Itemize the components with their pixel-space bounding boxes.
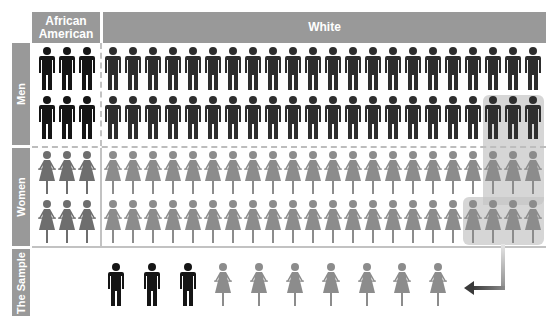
row-label-women-text: Women	[15, 177, 27, 217]
man-white-icon	[204, 47, 222, 91]
man-white-icon	[484, 47, 502, 91]
man-white-icon	[264, 96, 282, 140]
woman-african-american-icon	[38, 200, 56, 244]
woman-african-american-icon	[78, 200, 96, 244]
man-white-icon	[164, 47, 182, 91]
sample-woman-icon	[250, 263, 268, 307]
man-white-icon	[244, 47, 262, 91]
woman-white-icon	[184, 200, 202, 244]
woman-white-icon	[344, 200, 362, 244]
man-white-icon	[484, 96, 502, 140]
woman-white-icon	[324, 151, 342, 195]
row-label-sample-text: The Sample	[15, 252, 27, 314]
woman-white-icon	[384, 151, 402, 195]
sample-man-icon	[179, 263, 197, 307]
woman-white-icon	[144, 151, 162, 195]
sample-woman-icon	[393, 263, 411, 307]
header-african-american: African American	[32, 12, 100, 43]
woman-white-icon	[364, 151, 382, 195]
woman-white-icon	[404, 200, 422, 244]
row-label-women: Women	[12, 148, 30, 246]
woman-white-icon	[184, 151, 202, 195]
man-white-icon	[424, 47, 442, 91]
man-white-icon	[124, 47, 142, 91]
man-white-icon	[184, 96, 202, 140]
woman-white-icon	[464, 200, 482, 244]
man-white-icon	[224, 47, 242, 91]
woman-white-icon	[424, 151, 442, 195]
man-white-icon	[464, 47, 482, 91]
woman-white-icon	[144, 200, 162, 244]
woman-white-icon	[224, 200, 242, 244]
woman-white-icon	[504, 200, 522, 244]
man-white-icon	[104, 47, 122, 91]
man-white-icon	[284, 47, 302, 91]
man-white-icon	[324, 47, 342, 91]
man-white-icon	[344, 96, 362, 140]
man-white-icon	[464, 96, 482, 140]
woman-white-icon	[504, 151, 522, 195]
man-white-icon	[284, 96, 302, 140]
woman-white-icon	[204, 200, 222, 244]
man-white-icon	[144, 96, 162, 140]
man-white-icon	[444, 96, 462, 140]
woman-white-icon	[364, 200, 382, 244]
sample-man-icon	[143, 263, 161, 307]
woman-african-american-icon	[38, 151, 56, 195]
divider-men-women	[32, 146, 546, 148]
man-white-icon	[224, 96, 242, 140]
woman-white-icon	[304, 151, 322, 195]
man-white-icon	[404, 96, 422, 140]
man-african-american-icon	[78, 47, 96, 91]
woman-white-icon	[244, 151, 262, 195]
sample-woman-icon	[429, 263, 447, 307]
man-white-icon	[384, 96, 402, 140]
woman-white-icon	[284, 200, 302, 244]
woman-white-icon	[304, 200, 322, 244]
man-african-american-icon	[58, 96, 76, 140]
row-label-sample: The Sample	[12, 249, 30, 316]
woman-white-icon	[164, 200, 182, 244]
woman-white-icon	[484, 200, 502, 244]
man-white-icon	[524, 47, 542, 91]
man-white-icon	[444, 47, 462, 91]
sample-woman-icon	[214, 263, 232, 307]
woman-white-icon	[204, 151, 222, 195]
header-african-american-label: African American	[36, 15, 96, 41]
man-white-icon	[364, 96, 382, 140]
woman-white-icon	[244, 200, 262, 244]
man-white-icon	[524, 96, 542, 140]
woman-white-icon	[104, 151, 122, 195]
woman-african-american-icon	[78, 151, 96, 195]
woman-white-icon	[384, 200, 402, 244]
woman-white-icon	[324, 200, 342, 244]
woman-white-icon	[444, 200, 462, 244]
woman-white-icon	[124, 200, 142, 244]
man-white-icon	[164, 96, 182, 140]
header-white: White	[103, 12, 546, 43]
man-white-icon	[364, 47, 382, 91]
man-white-icon	[324, 96, 342, 140]
woman-white-icon	[464, 151, 482, 195]
woman-white-icon	[124, 151, 142, 195]
man-white-icon	[504, 47, 522, 91]
divider-race-lower	[100, 148, 102, 247]
woman-white-icon	[264, 200, 282, 244]
man-white-icon	[264, 47, 282, 91]
woman-white-icon	[164, 151, 182, 195]
man-white-icon	[104, 96, 122, 140]
woman-white-icon	[284, 151, 302, 195]
sample-man-icon	[107, 263, 125, 307]
man-white-icon	[124, 96, 142, 140]
man-white-icon	[424, 96, 442, 140]
woman-white-icon	[104, 200, 122, 244]
man-white-icon	[304, 96, 322, 140]
man-white-icon	[204, 96, 222, 140]
sample-woman-icon	[322, 263, 340, 307]
woman-white-icon	[264, 151, 282, 195]
sample-woman-icon	[358, 263, 376, 307]
row-label-men: Men	[12, 43, 30, 145]
woman-white-icon	[424, 200, 442, 244]
man-white-icon	[144, 47, 162, 91]
row-label-men-text: Men	[15, 83, 27, 105]
